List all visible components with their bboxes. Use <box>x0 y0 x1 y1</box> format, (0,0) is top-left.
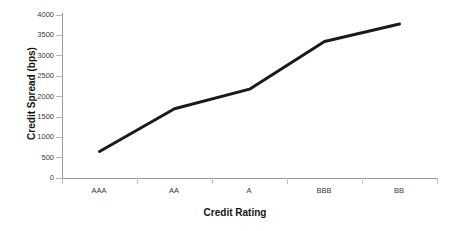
credit-spread-line <box>100 24 400 152</box>
line-chart: Credit Spread (bps) 4000 3500 3000 2500 … <box>0 0 449 231</box>
series-layer <box>0 0 449 231</box>
